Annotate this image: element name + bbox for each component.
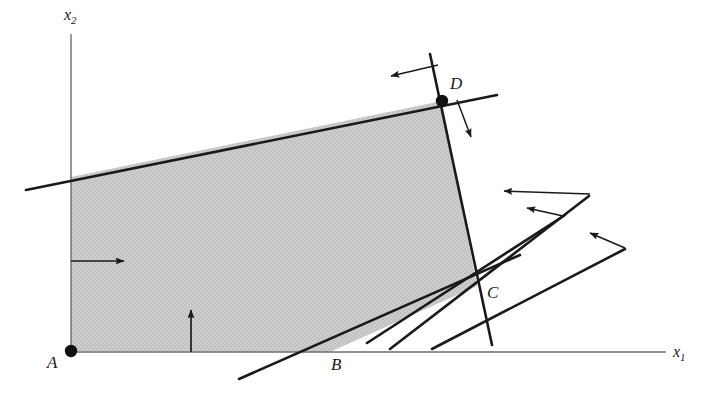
- arrow-c-fan-1: [504, 191, 590, 194]
- vertex-label-B: B: [331, 355, 341, 375]
- x2-axis-label: x2: [64, 6, 77, 26]
- vertex-dot-D: [436, 95, 448, 107]
- feasible-region-shading: [71, 101, 477, 352]
- vertex-dot-A: [65, 345, 77, 357]
- arrow-from-top-line: [391, 65, 438, 76]
- lp-feasible-region-figure: A B C D x1 x2: [0, 0, 717, 404]
- vertex-label-D: D: [450, 74, 462, 94]
- arrow-c-fan-3: [590, 233, 625, 248]
- arrow-from-right-line: [457, 100, 471, 137]
- figure-canvas: [0, 0, 717, 404]
- x1-axis-label-sub: 1: [680, 351, 686, 363]
- vertex-label-A: A: [47, 353, 57, 373]
- x1-axis-label: x1: [673, 343, 686, 363]
- arrow-c-fan-2: [527, 208, 563, 216]
- vertex-label-C: C: [487, 283, 498, 303]
- x2-axis-label-sub: 2: [71, 14, 77, 26]
